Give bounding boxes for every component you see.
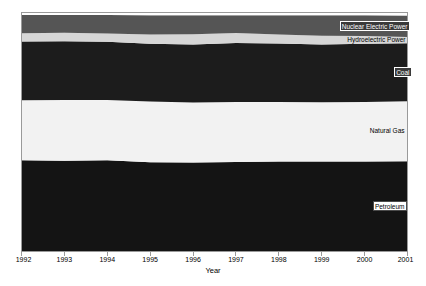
- x-axis-tick-label-1996: 1996: [180, 256, 206, 264]
- axis-tick-marks: [22, 252, 408, 256]
- x-axis-tick-label-1999: 1999: [309, 256, 335, 264]
- area-band-natural-gas: [22, 100, 408, 163]
- area-series-group: [22, 13, 408, 252]
- series-label-coal: Coal: [394, 67, 411, 77]
- x-axis-title: Year: [0, 266, 426, 275]
- x-axis-tick-label-1995: 1995: [137, 256, 163, 264]
- series-label-nuclear-electric-power: Nuclear Electric Power: [340, 21, 410, 31]
- x-axis-tick-label-1992: 1992: [11, 256, 37, 264]
- x-axis-tick-label-1998: 1998: [266, 256, 292, 264]
- stacked-area-chart: 1992199319941995199619971998199920002001…: [0, 0, 426, 286]
- series-label-petroleum: Petroleum: [373, 201, 407, 211]
- x-axis-tick-label-2001: 2001: [393, 256, 419, 264]
- series-label-natural-gas: Natural Gas: [369, 126, 406, 136]
- x-axis-tick-label-1994: 1994: [94, 256, 120, 264]
- x-axis-tick-label-2000: 2000: [352, 256, 378, 264]
- series-label-hydroelectric-power: Hydroelectric Power: [346, 35, 406, 45]
- area-band-petroleum: [22, 160, 408, 251]
- x-axis-tick-label-1993: 1993: [51, 256, 77, 264]
- x-axis-tick-label-1997: 1997: [223, 256, 249, 264]
- area-band-coal: [22, 41, 408, 102]
